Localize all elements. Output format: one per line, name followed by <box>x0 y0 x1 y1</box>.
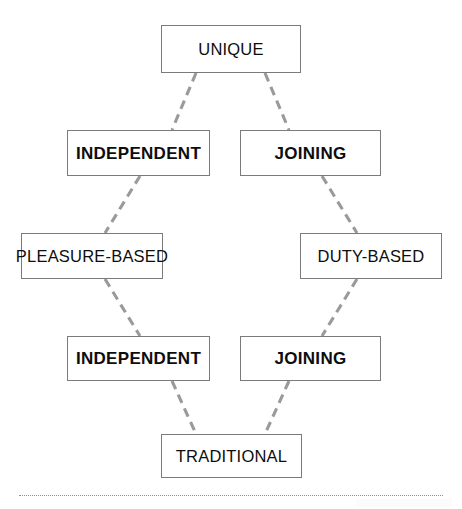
edge-joining-upper-duty-based <box>322 176 357 233</box>
page-artifact <box>356 499 452 507</box>
node-joining-lower-label: JOINING <box>274 350 346 367</box>
edge-unique-joining-upper <box>265 73 289 130</box>
node-independent-upper-label: INDEPENDENT <box>76 145 201 162</box>
node-unique: UNIQUE <box>161 25 301 73</box>
node-pleasure-based: PLEASURE-BASED <box>21 233 163 279</box>
horizontal-separator <box>19 495 443 496</box>
node-unique-label: UNIQUE <box>198 41 263 58</box>
edge-joining-lower-traditional <box>265 381 289 434</box>
node-duty-based-label: DUTY-BASED <box>318 248 425 265</box>
node-joining-lower: JOINING <box>240 336 381 381</box>
edge-pleasure-based-independent-lower <box>105 279 140 336</box>
edge-unique-independent-upper <box>172 73 196 130</box>
node-independent-lower-label: INDEPENDENT <box>76 350 201 367</box>
diagram-canvas: UNIQUE INDEPENDENT JOINING PLEASURE-BASE… <box>0 0 462 509</box>
edge-independent-upper-pleasure-based <box>105 176 140 233</box>
node-traditional-label: TRADITIONAL <box>176 448 287 465</box>
node-independent-lower: INDEPENDENT <box>67 336 210 381</box>
node-traditional: TRADITIONAL <box>161 434 302 478</box>
node-pleasure-based-label: PLEASURE-BASED <box>16 248 168 265</box>
node-joining-upper: JOINING <box>240 130 381 176</box>
node-joining-upper-label: JOINING <box>274 145 346 162</box>
edge-duty-based-joining-lower <box>322 279 357 336</box>
node-duty-based: DUTY-BASED <box>300 233 442 279</box>
edge-independent-lower-traditional <box>172 381 196 434</box>
node-independent-upper: INDEPENDENT <box>67 130 210 176</box>
